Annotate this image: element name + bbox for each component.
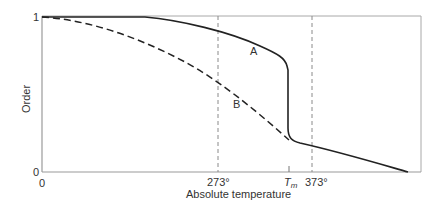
curve-a-label: A [250,45,258,57]
plot-frame [42,16,421,172]
x-tick-label-273: 273° [207,176,230,188]
curve-b [42,17,289,140]
curve-a [42,17,408,172]
y-tick-label-1: 1 [33,11,39,23]
order-vs-temperature-chart: A B 1 0 0 273° Tm 373° Absolute temperat… [0,0,440,208]
x-tick-label-0: 0 [39,177,45,189]
curve-b-label: B [233,98,240,110]
y-axis-title: Order [20,85,32,113]
x-axis-title: Absolute temperature [186,188,291,200]
x-tick-label-373: 373° [305,176,328,188]
